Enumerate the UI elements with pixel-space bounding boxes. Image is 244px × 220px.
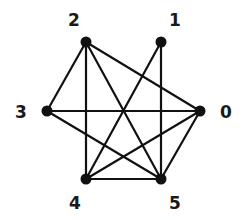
edge-2-3: [47, 42, 86, 111]
node-label-2: 2: [68, 10, 80, 30]
node-label-3: 3: [15, 102, 27, 122]
node-1: [156, 37, 167, 48]
node-4: [81, 174, 92, 185]
node-label-0: 0: [220, 102, 232, 122]
node-2: [81, 37, 92, 48]
node-5: [156, 174, 167, 185]
edges-group: [47, 42, 200, 179]
edge-0-5: [161, 111, 200, 179]
graph-diagram: 012345: [0, 0, 244, 220]
node-label-4: 4: [69, 193, 81, 213]
node-label-1: 1: [169, 10, 181, 30]
node-3: [42, 106, 53, 117]
node-0: [195, 106, 206, 117]
node-label-5: 5: [169, 193, 181, 213]
